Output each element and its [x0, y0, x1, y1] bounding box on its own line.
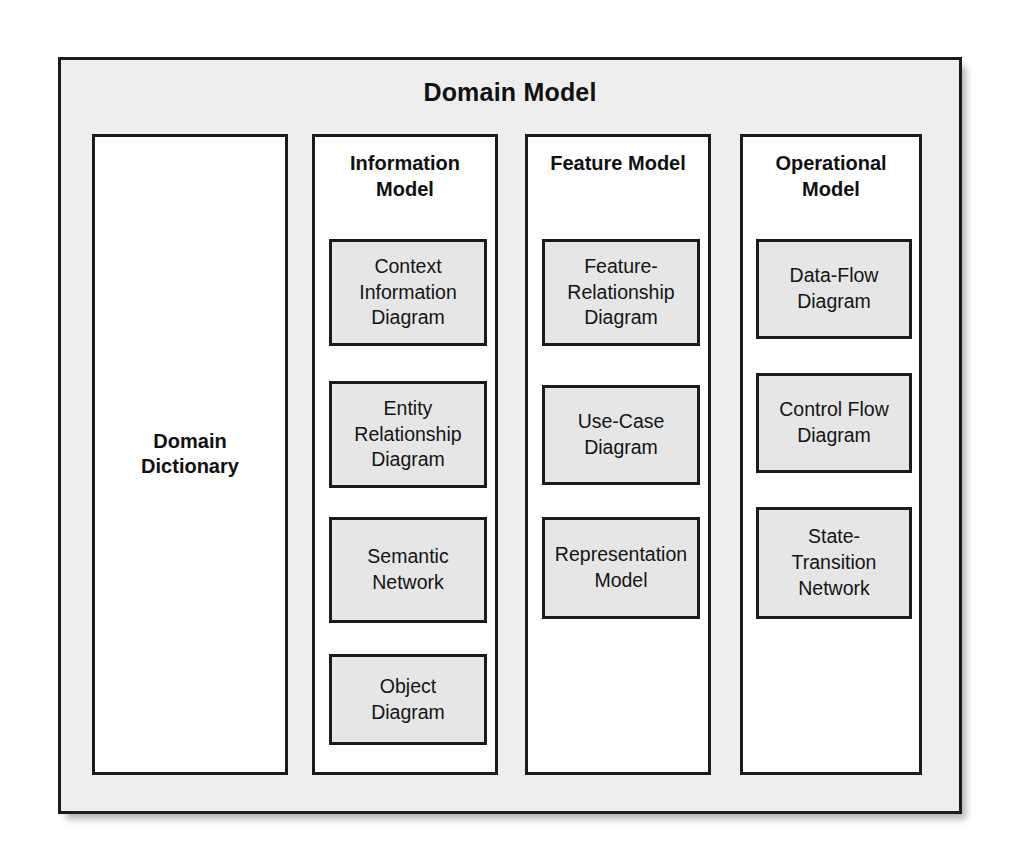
column-operational-model[interactable]: OperationalModel Data-FlowDiagram Contro… — [740, 134, 922, 775]
item-object-diagram[interactable]: ObjectDiagram — [329, 654, 487, 745]
item-data-flow-diagram[interactable]: Data-FlowDiagram — [756, 239, 912, 339]
column-title-operational-model: OperationalModel — [743, 151, 919, 202]
column-feature-model[interactable]: Feature Model Feature-RelationshipDiagra… — [525, 134, 711, 775]
item-label: Use-CaseDiagram — [574, 409, 669, 461]
item-state-transition-network[interactable]: State-TransitionNetwork — [756, 507, 912, 619]
column-title-domain-dictionary: DomainDictionary — [95, 429, 285, 480]
domain-model-frame: Domain Model DomainDictionary Informatio… — [58, 57, 962, 814]
column-information-model[interactable]: InformationModel ContextInformationDiagr… — [312, 134, 498, 775]
column-title-feature-model: Feature Model — [528, 151, 708, 177]
diagram-canvas: Domain Model DomainDictionary Informatio… — [0, 0, 1016, 846]
item-label: Control FlowDiagram — [775, 397, 892, 449]
item-label: SemanticNetwork — [363, 544, 452, 596]
item-label: ObjectDiagram — [367, 674, 449, 726]
item-label: ContextInformationDiagram — [355, 254, 461, 332]
item-label: Feature-RelationshipDiagram — [563, 254, 678, 332]
item-context-information-diagram[interactable]: ContextInformationDiagram — [329, 239, 487, 346]
column-title-information-model: InformationModel — [315, 151, 495, 202]
item-label: Data-FlowDiagram — [786, 263, 883, 315]
item-representation-model[interactable]: RepresentationModel — [542, 517, 700, 619]
item-semantic-network[interactable]: SemanticNetwork — [329, 517, 487, 623]
item-label: RepresentationModel — [551, 542, 691, 594]
item-label: State-TransitionNetwork — [788, 524, 881, 602]
item-control-flow-diagram[interactable]: Control FlowDiagram — [756, 373, 912, 473]
item-feature-relationship-diagram[interactable]: Feature-RelationshipDiagram — [542, 239, 700, 346]
item-entity-relationship-diagram[interactable]: EntityRelationshipDiagram — [329, 381, 487, 488]
column-domain-dictionary[interactable]: DomainDictionary — [92, 134, 288, 775]
item-use-case-diagram[interactable]: Use-CaseDiagram — [542, 385, 700, 485]
page-title: Domain Model — [61, 78, 959, 107]
item-label: EntityRelationshipDiagram — [350, 396, 465, 474]
